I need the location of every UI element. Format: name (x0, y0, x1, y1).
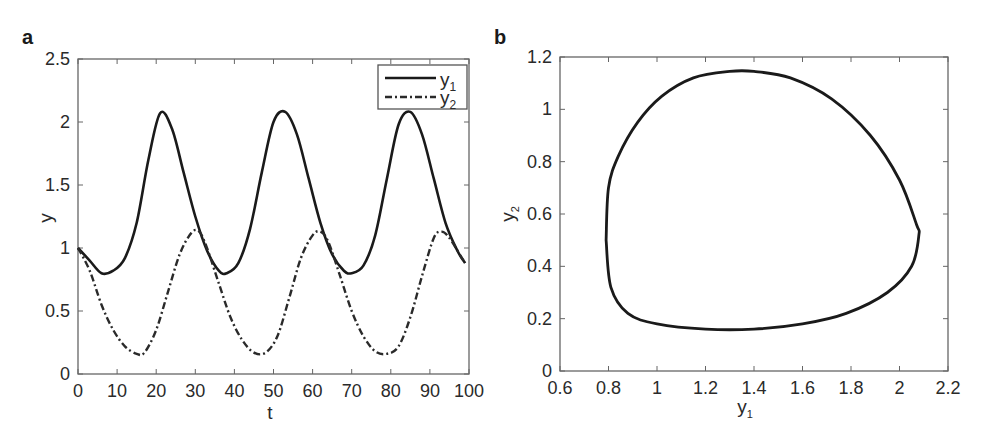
y-tick-label: 1.5 (45, 175, 70, 195)
figure: a 010203040506070809010000.511.522.5 t y… (0, 0, 986, 443)
x-tick-label: 60 (303, 381, 323, 401)
y-tick-label: 1.2 (527, 47, 552, 67)
y-tick-label: 0.6 (527, 204, 552, 224)
x-tick-label: 70 (342, 381, 362, 401)
x-tick-label: 1 (652, 378, 662, 398)
y-tick-label: 1 (60, 238, 70, 258)
panel-a: a 010203040506070809010000.511.522.5 t y… (22, 26, 484, 423)
panel-a-label: a (22, 26, 34, 48)
phase-portrait-curve (606, 71, 919, 330)
x-tick-label: 40 (224, 381, 244, 401)
x-tick-label: 1.4 (741, 378, 766, 398)
x-tick-label: 2 (894, 378, 904, 398)
y-tick-label: 0.5 (45, 301, 70, 321)
x-tick-label: 20 (146, 381, 166, 401)
y-tick-label: 0 (60, 364, 70, 384)
panel-b: b 0.60.811.21.41.61.822.200.20.40.60.811… (494, 26, 961, 420)
panel-b-plot-frame (560, 57, 948, 371)
y-tick-label: 0.8 (527, 152, 552, 172)
x-tick-label: 1.6 (790, 378, 815, 398)
x-tick-label: 80 (381, 381, 401, 401)
panel-b-ticks (560, 57, 948, 371)
series-y2-line (78, 230, 465, 355)
panel-b-ylabel: y2 (497, 206, 521, 222)
panel-b-label: b (494, 26, 506, 48)
x-tick-label: 90 (420, 381, 440, 401)
panel-a-xlabel: t (267, 402, 273, 423)
panel-b-xlabel: y1 (737, 396, 753, 420)
x-tick-label: 10 (107, 381, 127, 401)
y-tick-label: 0 (542, 361, 552, 381)
y-tick-label: 2.5 (45, 49, 70, 69)
panel-b-tick-labels: 0.60.811.21.41.61.822.200.20.40.60.811.2 (527, 47, 961, 398)
y-tick-label: 2 (60, 112, 70, 132)
x-tick-label: 2.2 (935, 378, 960, 398)
x-tick-label: 30 (185, 381, 205, 401)
y-tick-label: 0.2 (527, 309, 552, 329)
series-y1-line (78, 111, 465, 274)
x-tick-label: 0 (73, 381, 83, 401)
x-tick-label: 0.8 (596, 378, 621, 398)
x-tick-label: 50 (263, 381, 283, 401)
x-tick-label: 1.8 (838, 378, 863, 398)
x-tick-label: 100 (454, 381, 484, 401)
x-tick-label: 0.6 (547, 378, 572, 398)
y-tick-label: 0.4 (527, 256, 552, 276)
legend: y1 y2 (378, 65, 467, 112)
panel-a-ylabel: y (35, 213, 56, 223)
x-tick-label: 1.2 (693, 378, 718, 398)
y-tick-label: 1 (542, 99, 552, 119)
